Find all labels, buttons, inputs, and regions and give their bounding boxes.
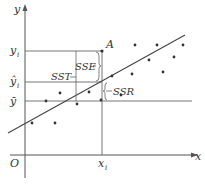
y-axis-label: y <box>13 3 21 16</box>
data-points <box>31 44 185 125</box>
y-hat-i-label: ŷ i <box>9 75 19 90</box>
sst-label: SST <box>51 71 73 82</box>
ssr-label: SSR <box>113 86 135 97</box>
svg-text:x: x <box>98 157 105 170</box>
point-a <box>100 49 103 52</box>
svg-text:i: i <box>17 82 19 90</box>
y-i-label: y i <box>9 44 19 59</box>
x-axis-label: x <box>195 150 202 163</box>
regression-diagram: y x O y i ŷ i ȳ x i SST SSE SSR A <box>0 0 205 184</box>
svg-text:i: i <box>105 164 107 172</box>
sse-label: SSE <box>75 61 97 72</box>
y-axis <box>23 4 28 178</box>
x-i-label: x i <box>98 157 107 172</box>
point-a-label: A <box>105 38 114 51</box>
regression-line <box>8 35 185 133</box>
svg-text:ŷ: ŷ <box>9 75 17 88</box>
origin-label: O <box>10 157 19 170</box>
svg-text:i: i <box>17 51 19 59</box>
ssr-bracket <box>103 83 112 100</box>
svg-text:y: y <box>9 44 17 57</box>
y-bar-label: ȳ <box>9 95 17 108</box>
